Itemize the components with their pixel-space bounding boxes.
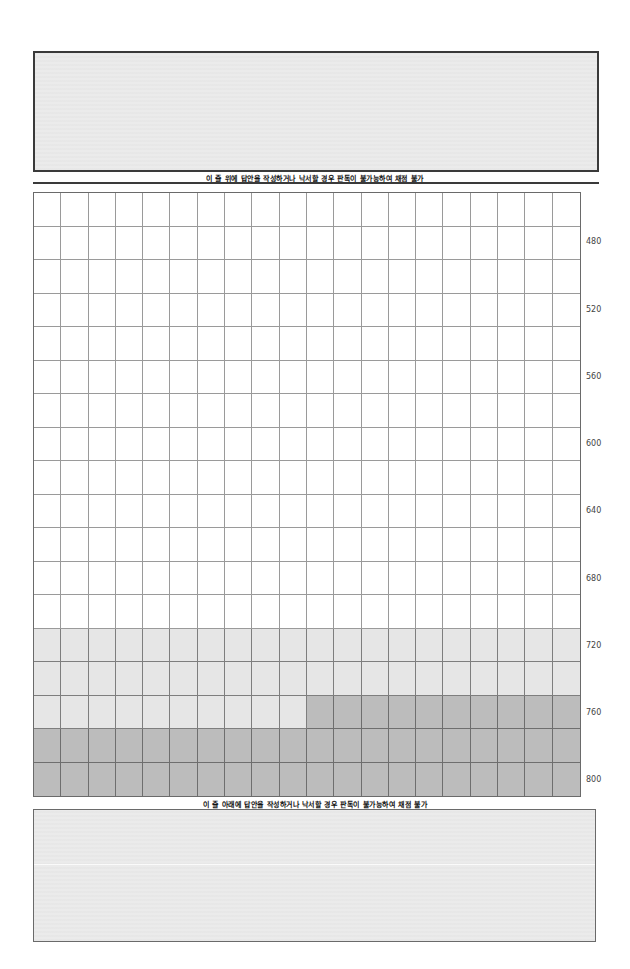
answer-cell[interactable] <box>143 361 170 395</box>
answer-cell[interactable] <box>334 294 361 328</box>
answer-cell[interactable] <box>416 260 443 294</box>
answer-cell[interactable] <box>143 662 170 696</box>
answer-cell[interactable] <box>170 595 197 629</box>
answer-cell[interactable] <box>443 696 470 730</box>
answer-cell[interactable] <box>89 629 116 663</box>
answer-cell[interactable] <box>498 662 525 696</box>
answer-cell[interactable] <box>252 193 279 227</box>
answer-cell[interactable] <box>225 327 252 361</box>
answer-cell[interactable] <box>280 428 307 462</box>
answer-cell[interactable] <box>553 595 580 629</box>
answer-cell[interactable] <box>61 495 88 529</box>
answer-cell[interactable] <box>525 662 552 696</box>
answer-cell[interactable] <box>334 729 361 763</box>
answer-cell[interactable] <box>280 595 307 629</box>
answer-cell[interactable] <box>34 260 61 294</box>
answer-cell[interactable] <box>280 294 307 328</box>
answer-cell[interactable] <box>89 193 116 227</box>
answer-cell[interactable] <box>34 394 61 428</box>
answer-cell[interactable] <box>443 461 470 495</box>
answer-cell[interactable] <box>443 595 470 629</box>
answer-cell[interactable] <box>116 595 143 629</box>
answer-cell[interactable] <box>334 227 361 261</box>
answer-cell[interactable] <box>116 495 143 529</box>
answer-cell[interactable] <box>471 394 498 428</box>
answer-cell[interactable] <box>143 562 170 596</box>
answer-cell[interactable] <box>525 495 552 529</box>
answer-cell[interactable] <box>334 428 361 462</box>
answer-cell[interactable] <box>61 528 88 562</box>
answer-cell[interactable] <box>362 193 389 227</box>
answer-cell[interactable] <box>143 428 170 462</box>
answer-cell[interactable] <box>471 294 498 328</box>
answer-cell[interactable] <box>307 528 334 562</box>
answer-cell[interactable] <box>416 428 443 462</box>
answer-cell[interactable] <box>416 562 443 596</box>
answer-cell[interactable] <box>34 193 61 227</box>
answer-cell[interactable] <box>225 294 252 328</box>
answer-cell[interactable] <box>443 428 470 462</box>
answer-cell[interactable] <box>334 193 361 227</box>
answer-cell[interactable] <box>34 595 61 629</box>
answer-cell[interactable] <box>143 528 170 562</box>
answer-cell[interactable] <box>170 696 197 730</box>
answer-cell[interactable] <box>416 729 443 763</box>
answer-cell[interactable] <box>525 629 552 663</box>
answer-cell[interactable] <box>143 696 170 730</box>
answer-cell[interactable] <box>334 327 361 361</box>
answer-cell[interactable] <box>280 562 307 596</box>
answer-cell[interactable] <box>498 193 525 227</box>
answer-cell[interactable] <box>362 227 389 261</box>
answer-cell[interactable] <box>471 763 498 797</box>
answer-cell[interactable] <box>89 696 116 730</box>
answer-cell[interactable] <box>143 495 170 529</box>
answer-cell[interactable] <box>389 294 416 328</box>
answer-cell[interactable] <box>525 428 552 462</box>
answer-cell[interactable] <box>498 227 525 261</box>
answer-cell[interactable] <box>252 227 279 261</box>
answer-cell[interactable] <box>225 696 252 730</box>
answer-cell[interactable] <box>143 461 170 495</box>
answer-cell[interactable] <box>170 495 197 529</box>
answer-cell[interactable] <box>116 294 143 328</box>
answer-cell[interactable] <box>443 193 470 227</box>
answer-cell[interactable] <box>225 428 252 462</box>
answer-cell[interactable] <box>89 528 116 562</box>
answer-cell[interactable] <box>89 662 116 696</box>
answer-cell[interactable] <box>89 294 116 328</box>
answer-cell[interactable] <box>198 595 225 629</box>
answer-cell[interactable] <box>553 327 580 361</box>
answer-cell[interactable] <box>143 227 170 261</box>
answer-cell[interactable] <box>252 528 279 562</box>
answer-cell[interactable] <box>553 528 580 562</box>
answer-cell[interactable] <box>34 562 61 596</box>
answer-cell[interactable] <box>416 227 443 261</box>
answer-cell[interactable] <box>116 260 143 294</box>
answer-cell[interactable] <box>252 327 279 361</box>
answer-cell[interactable] <box>252 361 279 395</box>
answer-cell[interactable] <box>116 327 143 361</box>
answer-cell[interactable] <box>389 428 416 462</box>
answer-cell[interactable] <box>443 662 470 696</box>
answer-cell[interactable] <box>389 227 416 261</box>
answer-cell[interactable] <box>280 495 307 529</box>
answer-cell[interactable] <box>389 595 416 629</box>
answer-cell[interactable] <box>498 763 525 797</box>
answer-cell[interactable] <box>61 394 88 428</box>
answer-cell[interactable] <box>143 327 170 361</box>
answer-cell[interactable] <box>553 729 580 763</box>
answer-cell[interactable] <box>553 461 580 495</box>
answer-cell[interactable] <box>143 193 170 227</box>
answer-cell[interactable] <box>61 696 88 730</box>
answer-cell[interactable] <box>198 528 225 562</box>
answer-cell[interactable] <box>116 227 143 261</box>
answer-cell[interactable] <box>471 461 498 495</box>
answer-cell[interactable] <box>307 629 334 663</box>
answer-cell[interactable] <box>143 595 170 629</box>
answer-cell[interactable] <box>307 595 334 629</box>
answer-cell[interactable] <box>170 428 197 462</box>
answer-cell[interactable] <box>89 595 116 629</box>
answer-cell[interactable] <box>525 528 552 562</box>
answer-cell[interactable] <box>307 260 334 294</box>
answer-cell[interactable] <box>525 729 552 763</box>
